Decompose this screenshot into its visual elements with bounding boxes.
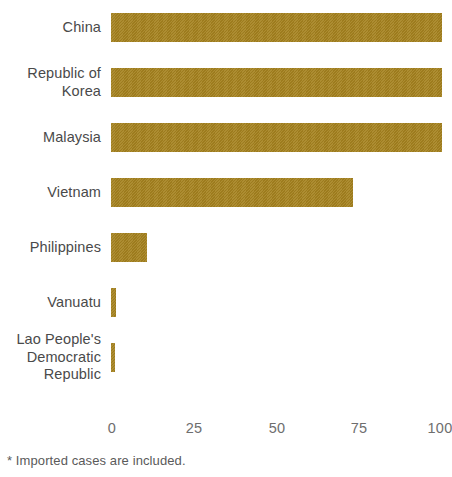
bar-track [111, 13, 442, 42]
x-tick-label: 25 [186, 418, 203, 438]
bar-row: Philippines [0, 220, 452, 275]
bar-lao-peoples-democratic-republic [111, 343, 115, 372]
bar-row: China [0, 0, 452, 55]
bar-track [111, 178, 442, 207]
x-tick-label: 50 [269, 418, 286, 438]
bar-track [111, 288, 442, 317]
bar-vietnam [111, 178, 353, 207]
x-axis: 0 25 50 75 100 [0, 418, 452, 442]
bar-chart: China Republic of Korea Malaysia Vietnam [0, 0, 452, 477]
bar-row: Republic of Korea [0, 55, 452, 110]
bar-malaysia [111, 123, 442, 152]
bar-vanuatu [111, 288, 116, 317]
bar-track [111, 68, 442, 97]
category-label: Vanuatu [0, 275, 101, 330]
category-label: Malaysia [0, 110, 101, 165]
bar-row: Vietnam [0, 165, 452, 220]
bar-row: Lao People's Democratic Republic [0, 330, 452, 385]
bar-row: Vanuatu [0, 275, 452, 330]
x-tick-label: 75 [351, 418, 368, 438]
category-label: Republic of Korea [0, 55, 101, 110]
bar-republic-of-korea [111, 68, 442, 97]
category-label: Philippines [0, 220, 101, 275]
bar-china [111, 13, 442, 42]
plot-area: China Republic of Korea Malaysia Vietnam [0, 0, 452, 410]
bar-row: Malaysia [0, 110, 452, 165]
bar-track [111, 123, 442, 152]
category-label: China [0, 0, 101, 55]
category-label: Lao People's Democratic Republic [0, 330, 101, 385]
category-label: Vietnam [0, 165, 101, 220]
chart-footnote: * Imported cases are included. [7, 452, 186, 470]
bar-track [111, 343, 442, 372]
bar-track [111, 233, 442, 262]
bar-philippines [111, 233, 147, 262]
x-tick-label: 100 [428, 418, 452, 438]
x-tick-label: 0 [108, 418, 116, 438]
